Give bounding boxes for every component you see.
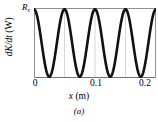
y-axis-label: dK/dt (W)	[5, 6, 15, 68]
x-axis-tick-label-2: 0.2	[133, 79, 157, 89]
y-axis-tick-symbol: R	[22, 2, 28, 12]
x-axis-label: x (m)	[0, 92, 158, 102]
plot-area	[34, 8, 156, 78]
x-axis-tick-label-1: 0.1	[84, 79, 108, 89]
y-axis-label-unit: (W)	[4, 17, 14, 32]
y-axis-tick-subscript: s	[28, 6, 30, 13]
figure-panel-a: dK/dt (W) Rs 0 0.1 0.2 x (m) (a)	[0, 0, 158, 122]
y-axis-tick-label-top: Rs	[22, 3, 30, 12]
x-axis-tick-label-0: 0	[23, 79, 47, 89]
y-axis-label-symbol: dK/dt	[4, 35, 14, 56]
x-axis-label-unit: (m)	[75, 91, 89, 101]
figure-caption: (a)	[0, 107, 158, 116]
